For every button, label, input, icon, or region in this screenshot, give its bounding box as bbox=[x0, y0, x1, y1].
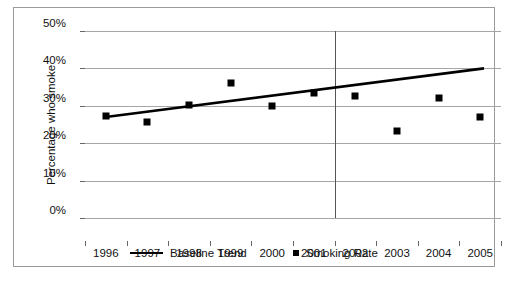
chart-container: Percentage who smoke bbox=[0, 0, 508, 285]
data-point-2002 bbox=[352, 92, 359, 99]
data-point-1996 bbox=[102, 112, 109, 119]
legend-label-baseline-trend: Baseline Trend bbox=[170, 247, 247, 259]
data-point-2003 bbox=[394, 127, 401, 134]
y-axis-label-10: 10% bbox=[43, 167, 66, 179]
line-swatch-icon bbox=[130, 252, 163, 255]
data-point-2001 bbox=[310, 89, 317, 96]
y-axis-label-30: 30% bbox=[43, 92, 66, 104]
y-tick-0 bbox=[80, 218, 85, 219]
legend-label-smoking-rate: Smoking Rate bbox=[306, 247, 378, 259]
legend-item-smoking-rate: Smoking Rate bbox=[293, 247, 378, 259]
data-point-2005 bbox=[477, 114, 484, 121]
square-marker-swatch-icon bbox=[293, 250, 299, 256]
chart-legend: Baseline Trend Smoking Rate bbox=[13, 240, 495, 266]
plot-area: Percentage who smoke bbox=[85, 31, 501, 218]
data-point-2004 bbox=[435, 94, 442, 101]
y-axis-label-40: 40% bbox=[43, 54, 66, 66]
y-axis-label-0: 0% bbox=[49, 204, 66, 216]
legend-item-baseline-trend: Baseline Trend bbox=[130, 247, 247, 259]
data-point-1997 bbox=[144, 118, 151, 125]
data-point-2000 bbox=[269, 102, 276, 109]
x-tick-10 bbox=[501, 241, 502, 246]
y-axis-label-50: 50% bbox=[43, 17, 66, 29]
data-point-1998 bbox=[186, 102, 193, 109]
y-axis-label-20: 20% bbox=[43, 129, 66, 141]
chart-frame: Percentage who smoke bbox=[13, 7, 495, 267]
gridline-0 bbox=[85, 218, 501, 219]
data-point-1999 bbox=[227, 80, 234, 87]
